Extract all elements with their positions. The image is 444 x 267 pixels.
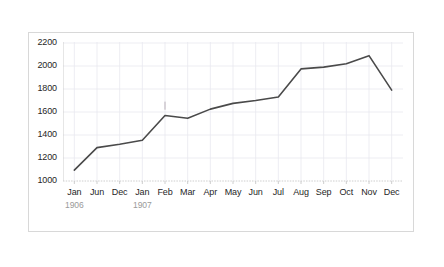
x-group-label: 1907 (122, 200, 162, 210)
y-tick-label: 1200 (27, 152, 57, 162)
y-tick-label: 1400 (27, 129, 57, 139)
x-gridlines (74, 42, 391, 181)
y-tick-label: 1600 (27, 106, 57, 116)
x-tick-label: Dec (376, 187, 408, 197)
y-tick-label: 2200 (27, 37, 57, 47)
y-tick-label: 1800 (27, 83, 57, 93)
chart-figure: 1000120014001600180020002200 JanJunDecJa… (28, 32, 414, 232)
y-tick-label: 1000 (27, 175, 57, 185)
plot-area: 1000120014001600180020002200 JanJunDecJa… (63, 39, 403, 212)
y-tick-label: 2000 (27, 60, 57, 70)
x-group-label: 1906 (54, 200, 94, 210)
